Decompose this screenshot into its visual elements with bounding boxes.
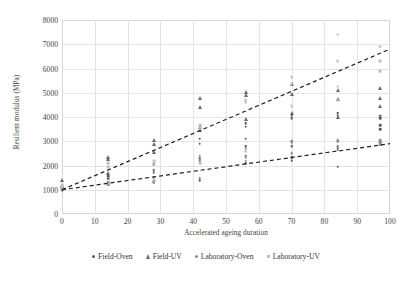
x-tick-label: 10 [80, 217, 110, 226]
y-tick-label: 6000 [24, 64, 58, 73]
data-point [152, 142, 156, 146]
data-point [60, 178, 64, 182]
data-point [198, 162, 201, 165]
chart-legend: Field-OvenField-UVLaboratory-OvenLaborat… [0, 252, 412, 261]
data-point [61, 186, 64, 189]
data-point [244, 93, 248, 97]
x-tick-label: 20 [113, 217, 143, 226]
data-point [378, 96, 382, 100]
data-point [244, 138, 247, 141]
y-tick-label: 1000 [24, 185, 58, 194]
data-point [336, 139, 339, 142]
data-point [378, 104, 382, 108]
data-point [244, 117, 248, 121]
data-point [290, 152, 293, 155]
gridline-vertical [160, 20, 161, 214]
data-point [244, 162, 247, 165]
data-point [198, 96, 202, 100]
data-point [290, 76, 293, 79]
data-point [336, 88, 340, 92]
legend-item-label: Field-UV [153, 252, 182, 261]
data-point [336, 165, 339, 168]
data-point [290, 141, 293, 144]
y-tick-label: 5000 [24, 88, 58, 97]
x-tick-label: 100 [375, 217, 405, 226]
data-point [107, 182, 110, 185]
y-tick-label: 8000 [24, 16, 58, 25]
dot-marker-icon [195, 255, 198, 258]
data-point [244, 101, 247, 104]
data-point [152, 150, 156, 154]
y-axis-tick-labels: 010002000300040005000600070008000 [20, 0, 58, 281]
data-point [379, 60, 382, 63]
data-point [290, 157, 293, 160]
data-point [336, 85, 339, 88]
data-point [244, 122, 247, 125]
data-point [198, 179, 201, 182]
data-point [61, 189, 64, 192]
data-point [152, 162, 155, 165]
y-tick-label: 7000 [24, 40, 58, 49]
data-point [153, 181, 156, 184]
data-point [152, 179, 155, 182]
data-point [378, 86, 382, 90]
data-point [379, 117, 382, 120]
data-point [244, 150, 247, 153]
data-point [107, 162, 110, 165]
data-point [290, 159, 293, 162]
gridline-vertical [226, 20, 227, 214]
data-point [106, 171, 110, 175]
data-point [379, 144, 382, 147]
x-tick-label: 0 [47, 217, 77, 226]
data-point [198, 138, 201, 141]
data-point [336, 99, 339, 102]
data-point [107, 178, 110, 181]
data-point [244, 159, 247, 162]
y-tick-label: 4000 [24, 113, 58, 122]
legend-item[interactable]: Laboratory-UV [267, 252, 320, 261]
y-tick-label: 2000 [24, 161, 58, 170]
dot-marker-icon [92, 255, 95, 258]
gridline-vertical [324, 20, 325, 214]
gridline-vertical [193, 20, 194, 214]
y-tick-label: 3000 [24, 137, 58, 146]
x-tick-label: 40 [178, 217, 208, 226]
x-tick-label: 60 [244, 217, 274, 226]
x-tick-label: 90 [342, 217, 372, 226]
data-point [336, 115, 340, 119]
x-axis-title: Accelerated ageing duration [62, 229, 390, 237]
data-point [290, 83, 293, 86]
data-point [153, 169, 156, 172]
legend-item-label: Laboratory-UV [273, 252, 320, 261]
legend-item-label: Laboratory-Oven [201, 252, 254, 261]
x-tick-label: 30 [145, 217, 175, 226]
data-point [107, 165, 110, 168]
data-point [244, 156, 247, 159]
data-point [290, 145, 293, 148]
triangle-marker-icon [146, 254, 150, 259]
data-point [198, 105, 202, 109]
data-point [336, 147, 339, 150]
data-point [198, 142, 201, 145]
square-marker-icon [267, 255, 270, 258]
legend-item[interactable]: Laboratory-Oven [195, 252, 254, 261]
data-point [153, 171, 156, 174]
legend-item[interactable]: Field-UV [146, 252, 182, 261]
data-point [290, 105, 293, 108]
data-point [198, 158, 201, 161]
data-point [379, 128, 382, 131]
data-point [244, 125, 247, 128]
data-point [198, 127, 201, 130]
data-point [290, 117, 293, 120]
legend-item[interactable]: Field-Oven [92, 252, 133, 261]
data-point [198, 176, 201, 179]
data-point [379, 70, 382, 73]
gridline-vertical [259, 20, 260, 214]
data-point [336, 60, 339, 63]
data-point [290, 92, 294, 96]
data-point [379, 124, 382, 127]
x-tick-label: 50 [211, 217, 241, 226]
legend-item-label: Field-Oven [98, 252, 133, 261]
gridline-vertical [128, 20, 129, 214]
data-point [198, 155, 201, 158]
